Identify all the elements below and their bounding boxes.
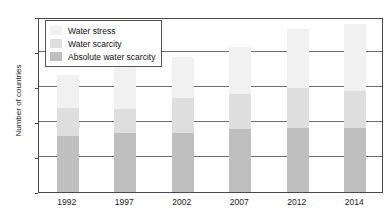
bar-segment-2012-water-scarcity [287,88,309,128]
x-tick-label-2007: 2007 [214,197,264,207]
bar-segment-2014-water-scarcity [344,91,366,128]
x-tick-label-2002: 2002 [157,197,207,207]
bar-segment-1997-absolute-water-scarcity [114,133,136,192]
bar-segment-2012-absolute-water-scarcity [287,128,309,192]
bar-segment-2012-water-stress [287,29,309,88]
y-tick-mark-50 [35,18,38,19]
legend-swatch-water-stress [50,26,62,35]
bar-segment-2007-water-scarcity [229,94,251,129]
y-tick-mark-20 [35,123,38,124]
bar-2007 [229,47,251,192]
bar-2002 [172,57,194,192]
bar-segment-1992-water-scarcity [57,108,79,136]
bar-2012 [287,29,309,192]
legend-item-water-scarcity: Water scarcity [50,37,155,50]
bar-1997 [114,57,136,192]
bar-segment-1992-water-stress [57,75,79,108]
legend-swatch-absolute-water-scarcity [50,52,62,61]
y-axis-title: Number of countries [14,41,23,161]
x-tick-label-2012: 2012 [272,197,322,207]
bar-2014 [344,24,366,192]
legend-item-water-stress: Water stress [50,24,155,37]
bar-segment-2014-absolute-water-scarcity [344,128,366,192]
y-tick-mark-30 [35,88,38,89]
bar-segment-2002-water-stress [172,57,194,97]
legend-item-absolute-water-scarcity: Absolute water scarcity [50,50,155,63]
x-tick-label-1992: 1992 [42,197,92,207]
stacked-bar-chart: Number of countries 01020304050 19921997… [0,0,391,222]
legend-label-water-scarcity: Water scarcity [68,39,122,49]
bar-segment-1992-absolute-water-scarcity [57,136,79,192]
legend-label-water-stress: Water stress [68,26,115,36]
chart-legend: Water stress Water scarcity Absolute wat… [45,20,162,67]
y-tick-mark-0 [35,193,38,194]
y-tick-mark-40 [35,53,38,54]
x-tick-label-1997: 1997 [99,197,149,207]
bar-segment-2014-water-stress [344,24,366,91]
y-tick-mark-10 [35,158,38,159]
bar-segment-2002-water-scarcity [172,98,194,134]
bar-segment-2007-absolute-water-scarcity [229,129,251,192]
bar-segment-2002-absolute-water-scarcity [172,133,194,192]
bar-1992 [57,75,79,192]
bar-segment-2007-water-stress [229,47,251,94]
bar-segment-1997-water-scarcity [114,109,136,133]
x-tick-label-2014: 2014 [329,197,379,207]
legend-label-absolute-water-scarcity: Absolute water scarcity [68,52,155,62]
legend-swatch-water-scarcity [50,39,62,48]
